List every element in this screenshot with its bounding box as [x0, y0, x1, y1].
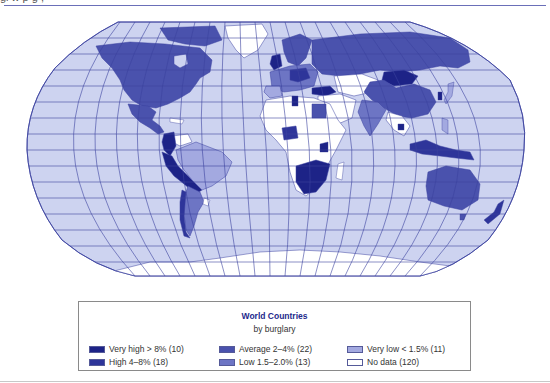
swatch-average	[219, 346, 235, 353]
korea	[438, 92, 442, 100]
legend-label: Average 2–4% (22)	[239, 344, 312, 354]
swatch-high	[89, 359, 105, 366]
legend-item-very-high: Very high > 8% (10)	[89, 343, 184, 355]
legend-item-no-data: No data (120)	[347, 356, 419, 368]
legend-title: World Countries	[79, 311, 470, 321]
nigeria	[282, 126, 298, 140]
legend-item-high: High 4–8% (18)	[89, 356, 168, 368]
cambodia	[398, 124, 404, 130]
map-legend: World Countries by burglary Very high > …	[78, 301, 471, 371]
east-africa	[320, 142, 328, 152]
legend-label: High 4–8% (18)	[109, 357, 168, 367]
swatch-no-data	[347, 359, 363, 366]
tunisia	[292, 96, 298, 106]
legend-item-low: Low 1.5–2.0% (13)	[219, 356, 310, 368]
egypt	[312, 104, 326, 118]
swatch-very-low	[347, 346, 363, 353]
bottom-divider	[0, 381, 550, 382]
legend-item-average: Average 2–4% (22)	[219, 343, 312, 355]
legend-label: Low 1.5–2.0% (13)	[239, 357, 310, 367]
legend-label: Very low < 1.5% (11)	[367, 344, 445, 354]
world-map	[0, 0, 550, 300]
legend-label: Very high > 8% (10)	[109, 344, 184, 354]
legend-item-very-low: Very low < 1.5% (11)	[347, 343, 445, 355]
swatch-low	[219, 359, 235, 366]
legend-subtitle: by burglary	[79, 324, 470, 334]
swatch-very-high	[89, 346, 105, 353]
legend-label: No data (120)	[367, 357, 419, 367]
